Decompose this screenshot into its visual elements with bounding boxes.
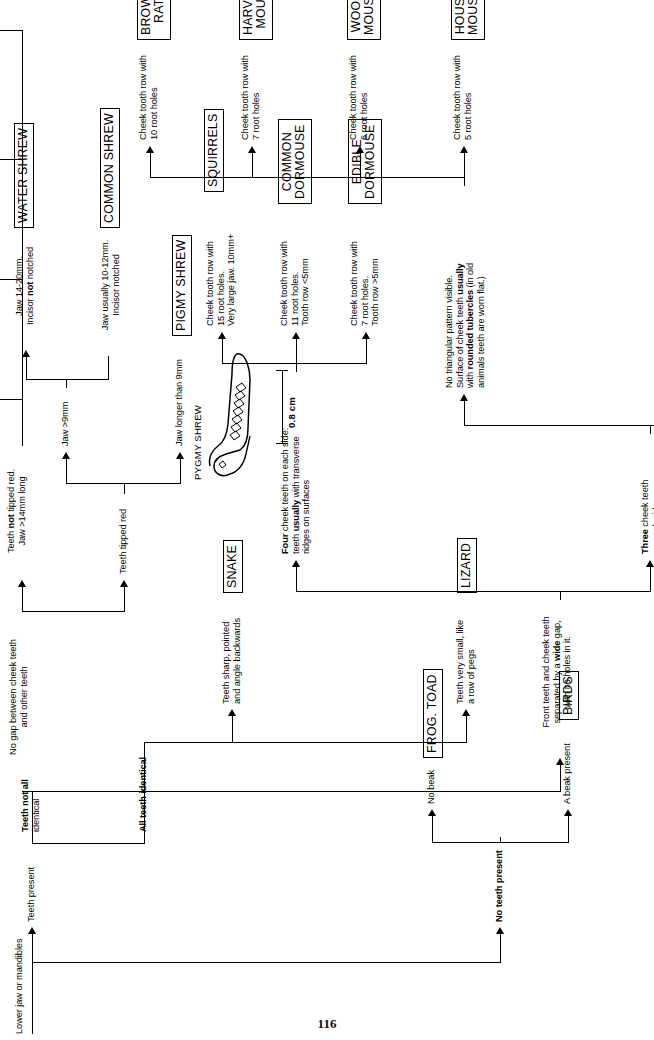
taxon-harvest-mouse: HARVEST MOUSE <box>239 0 273 40</box>
taxon-pigmy-shrew: PIGMY SHREW <box>172 235 192 336</box>
nt-stub-hedgehog <box>0 399 22 400</box>
branch-teeth-tipped-red: Teeth tipped red <box>118 464 129 574</box>
taxon-common-dormouse: COMMON DORMOUSE <box>278 119 312 204</box>
rodent-spine <box>296 591 650 592</box>
taxon-house-mouse: HOUSE MOUSE <box>451 0 485 40</box>
branch-teeth-sharp: Teeth sharp, pointed and angle backwards <box>221 584 242 704</box>
branch-teeth-pegs: Teeth very small, like a row of pegs <box>455 594 476 704</box>
branch-wide-gap: Front teeth and cheek teeth separated by… <box>541 592 573 752</box>
nt-stub-bats <box>0 30 22 31</box>
desc-squirrels: Cheek tooth row with 15 root holes. Very… <box>205 186 237 326</box>
mouse-spine <box>150 177 464 178</box>
branch-jaw-longer-9: Jaw longer than 9mm <box>174 324 185 446</box>
pygmy-shrew-caption: PYGMY SHREW <box>192 405 203 480</box>
branch-three-cheek-teeth: Three cheek teeth on each side <box>640 434 654 554</box>
pygmy-shrew-scale: 0.8 cm <box>286 397 297 428</box>
branch-four-cheek-teeth: Four cheek teeth on each side: teeth usu… <box>280 364 312 554</box>
branch-jaw-10-12: Jaw usually 10-12mm. Incisor notched <box>100 220 121 350</box>
taxon-wood-mouse: WOOD MOUSE <box>347 0 381 40</box>
taxon-water-shrew: WATER SHREW <box>14 123 34 228</box>
taxon-lizard: LIZARD <box>457 538 477 593</box>
taxon-snake: SNAKE <box>223 540 243 593</box>
page-number: 116 <box>0 1016 654 1032</box>
pygmy-shrew-jaw-drawing <box>206 350 268 480</box>
nt-bus <box>22 30 23 446</box>
nt-stub-mole <box>0 279 22 280</box>
taxon-common-shrew: COMMON SHREW <box>100 108 120 228</box>
taxon-frog-toad: FROG. TOAD <box>423 669 443 758</box>
dichotomous-key-canvas: Lower jaw or mandibles Teeth present No … <box>0 0 654 1040</box>
branch-jaw-14-20: Jaw 14-20mm. Incisor not notched <box>14 226 35 346</box>
desc-common-dormouse: Cheek tooth row with 11 root holes. Toot… <box>279 196 311 326</box>
taxon-brown-rat: BROWN RAT <box>137 0 171 40</box>
murid-spine <box>464 425 654 426</box>
branch-teeth-present: Teeth present <box>26 842 37 922</box>
taxon-squirrels: SQUIRRELS <box>204 109 224 192</box>
desc-edible-dormouse: Cheek tooth row with 7 root holes. Tooth… <box>349 196 381 326</box>
key-page: Lower jaw or mandibles Teeth present No … <box>0 0 654 1040</box>
branch-teeth-not-tipped-red: Teeth not tipped red. Jaw >14mm long <box>6 446 27 576</box>
branch-no-gap: No gap between cheek teeth and other tee… <box>8 612 29 782</box>
branch-no-triangular: No triangular pattern visible. Surface o… <box>444 176 486 388</box>
nt-stub-weasel <box>0 159 22 160</box>
